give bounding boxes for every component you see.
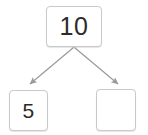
part-left-value: 5 [22, 100, 34, 121]
total-value: 10 [60, 14, 89, 39]
total-box[interactable]: 10 [46, 6, 102, 47]
part-box-right[interactable] [96, 89, 136, 131]
arrow-to-right-part [75, 48, 119, 85]
part-box-left[interactable]: 5 [9, 90, 48, 131]
number-bond-diagram: 10 5 [0, 0, 148, 135]
arrow-to-left-part [30, 48, 74, 85]
